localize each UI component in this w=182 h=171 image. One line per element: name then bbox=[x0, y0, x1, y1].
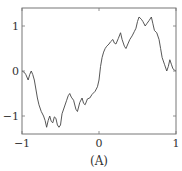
y-tick-label: −1 bbox=[3, 110, 19, 123]
axes-frame bbox=[22, 8, 176, 134]
figure-caption: (A) bbox=[90, 154, 108, 168]
x-axis-tick-labels: −101 bbox=[14, 137, 180, 150]
line-chart: −101 −101 (A) bbox=[0, 0, 182, 171]
y-tick-label: 0 bbox=[12, 65, 19, 78]
x-tick-label: 0 bbox=[96, 137, 103, 150]
axis-ticks bbox=[22, 8, 176, 134]
x-tick-label: 1 bbox=[173, 137, 180, 150]
plot-area bbox=[22, 17, 176, 127]
y-tick-label: 1 bbox=[12, 20, 19, 33]
y-axis-tick-labels: −101 bbox=[3, 20, 19, 123]
x-tick-label: −1 bbox=[14, 137, 30, 150]
data-line bbox=[22, 17, 176, 127]
